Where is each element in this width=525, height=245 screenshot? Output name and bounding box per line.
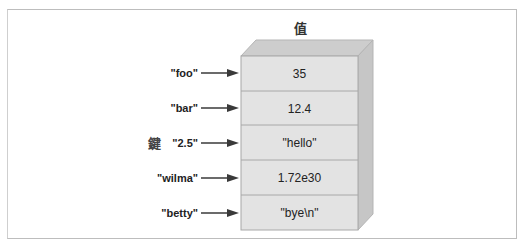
arrow-right-icon	[201, 208, 239, 218]
value-cell: 1.72e30	[241, 160, 358, 195]
value-cell: "hello"	[241, 125, 358, 160]
box-top-face	[241, 40, 373, 56]
value-cell: 35	[241, 56, 358, 91]
key-label: "betty"	[108, 206, 198, 220]
key-label: "2.5"	[108, 136, 198, 150]
key-label: "foo"	[108, 66, 198, 80]
arrow-right-icon	[201, 103, 239, 113]
arrow-right-icon	[201, 138, 239, 148]
arrow-right-icon	[201, 173, 239, 183]
key-label: "bar"	[108, 101, 198, 115]
value-cell: 12.4	[241, 91, 358, 126]
arrow-right-icon	[201, 68, 239, 78]
value-cell: "bye\n"	[241, 195, 358, 230]
key-label: "wilma"	[108, 171, 198, 185]
box-right-face	[358, 40, 373, 230]
